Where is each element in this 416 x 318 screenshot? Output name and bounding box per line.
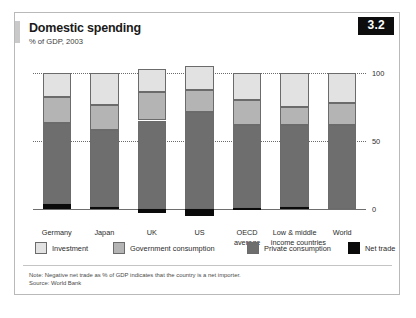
chart-title: Domestic spending [29,21,141,35]
legend-item-government[interactable]: Government consumption [113,241,215,255]
bar-segment-investment [328,73,357,103]
bar-segment-investment [233,73,262,100]
category-label-line: US [176,228,224,238]
bar-segment-private [233,125,262,208]
category-label-line: Japan [81,228,129,238]
bar-world[interactable] [328,59,357,223]
category-label-line: Germany [33,228,81,238]
bar-segment-nettrade [185,209,214,216]
plot-area: 050100GermanyJapanUKUSOECDaverageLow & m… [33,59,366,223]
y-axis-tick-0: 0 [372,205,376,214]
bar-low-middle-income-countries[interactable] [280,59,309,223]
legend-label-investment: Investment [52,244,88,253]
bar-oecd-average[interactable] [233,59,262,223]
bar-germany[interactable] [43,59,72,223]
legend-swatch-nettrade [348,242,360,254]
bar-segment-private [138,121,167,210]
category-label-line: UK [128,228,176,238]
figure-number-badge: 3.2 [358,17,394,35]
bar-segment-government [90,105,119,130]
bar-segment-nettrade [233,208,262,210]
category-label-world: World [318,228,366,238]
bar-japan[interactable] [90,59,119,223]
figure-panel: Domestic spending % of GDP, 2003 3.2 050… [14,12,400,295]
category-label-japan: Japan [81,228,129,238]
bar-segment-nettrade [280,207,309,210]
chart-source: Source: World Bank [29,280,81,286]
bar-segment-nettrade [138,209,167,213]
y-axis-tick-100: 100 [372,68,384,77]
bar-segment-private [328,125,357,210]
bar-segment-investment [138,69,167,92]
legend-item-investment[interactable]: Investment [35,241,88,255]
legend-item-nettrade[interactable]: Net trade [348,241,395,255]
bar-segment-investment [280,73,309,107]
bar-segment-government [280,107,309,125]
category-label-line: World [318,228,366,238]
category-label-germany: Germany [33,228,81,238]
category-label-line: OECD [223,228,271,238]
bar-segment-investment [185,66,214,91]
chart-subtitle: % of GDP, 2003 [29,37,83,46]
bar-segment-government [185,90,214,112]
legend-label-government: Government consumption [130,244,215,253]
bar-us[interactable] [185,59,214,223]
bar-segment-private [185,112,214,209]
bar-segment-investment [90,73,119,106]
footer-divider [23,265,392,266]
bar-segment-government [43,97,72,123]
chart-legend: InvestmentGovernment consumptionPrivate … [35,241,385,259]
bar-segment-nettrade [43,204,72,209]
legend-swatch-private [247,242,259,254]
legend-label-private: Private consumption [264,244,331,253]
y-axis-tick-50: 50 [372,137,380,146]
bar-segment-investment [43,73,72,98]
bar-segment-private [90,130,119,207]
category-label-line: Low & middle [271,228,319,238]
bar-segment-private [43,123,72,204]
bar-segment-government [138,92,167,121]
title-accent-bar [15,21,20,43]
chart-note: Note: Negative net trade as % of GDP ind… [29,272,241,278]
bar-segment-government [328,103,357,125]
bar-segment-private [280,125,309,207]
bar-segment-nettrade [90,207,119,210]
legend-label-nettrade: Net trade [365,244,395,253]
legend-item-private[interactable]: Private consumption [247,241,331,255]
category-label-uk: UK [128,228,176,238]
legend-swatch-investment [35,242,47,254]
bar-uk[interactable] [138,59,167,223]
category-label-us: US [176,228,224,238]
legend-swatch-government [113,242,125,254]
bar-segment-government [233,100,262,125]
